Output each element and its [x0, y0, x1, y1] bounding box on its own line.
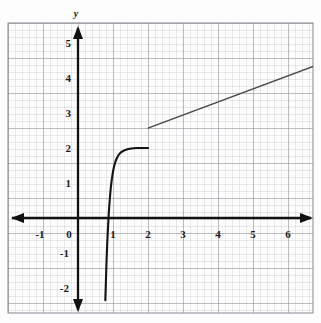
y-axis-label: y	[73, 8, 79, 19]
y-tick-label: 5	[66, 37, 72, 49]
x-tick-label: 6	[285, 228, 291, 240]
y-tick-label: 1	[66, 177, 72, 189]
y-tick-label: 4	[66, 72, 72, 84]
grid-layer	[8, 23, 313, 313]
x-tick-label: 1	[110, 228, 116, 240]
y-tick-label: 2	[66, 142, 72, 154]
y-tick-label: 3	[66, 107, 72, 119]
major-gridlines	[8, 23, 313, 313]
y-tick-label: -1	[60, 247, 69, 259]
x-tick-label: 5	[250, 228, 256, 240]
x-tick-label: 2	[145, 228, 151, 240]
x-tick-label: 3	[180, 228, 186, 240]
x-tick-label: 4	[215, 228, 221, 240]
graph-figure: -1 0 1 2 3 4 5 6 -2 -1 1 2 3 4 5 y	[0, 0, 321, 323]
x-tick-label: -1	[35, 228, 44, 240]
x-tick-label: 0	[66, 228, 72, 240]
y-tick-label: -2	[60, 282, 70, 294]
coordinate-plane-plot: -1 0 1 2 3 4 5 6 -2 -1 1 2 3 4 5 y	[0, 0, 321, 323]
